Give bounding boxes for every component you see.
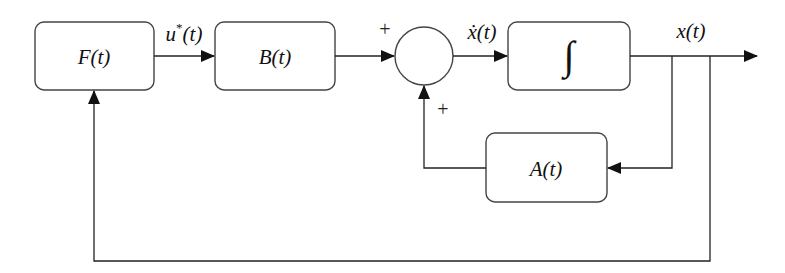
signal-u: u — [166, 22, 177, 46]
signal-u-arg: (t) — [183, 22, 203, 46]
signal-x-label: x(t) — [676, 21, 705, 42]
signal-u-star-label: u*(t) — [166, 21, 203, 45]
sign-plus-bottom: + — [437, 99, 448, 119]
integral-icon: ∫ — [564, 36, 575, 76]
block-f-label: F(t) — [78, 47, 111, 68]
block-b-label: B(t) — [259, 47, 292, 68]
block-diagram-canvas — [0, 0, 785, 273]
wire-feedback-to-a — [608, 56, 672, 168]
wire-a-to-sum — [424, 86, 486, 168]
block-a-label: A(t) — [530, 159, 563, 180]
summing-junction — [395, 27, 453, 85]
sign-plus-top: + — [379, 19, 390, 39]
wire-feedback-to-f — [94, 56, 710, 261]
signal-x-dot-label: ẋ(t) — [467, 22, 496, 43]
